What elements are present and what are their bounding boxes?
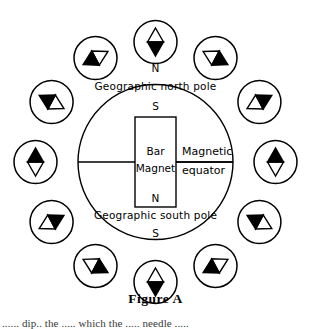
cropped-body-line: ...... dip.. the ..... which the ..... n… — [2, 318, 189, 329]
earth-magnetism-illustration: N Geographic north pole S Bar Magnet N M… — [0, 0, 311, 329]
magnet-bottom-pole-label: N — [152, 192, 160, 204]
compass-10-oclock — [30, 81, 73, 124]
bar-magnet-label-line1: Bar — [147, 145, 166, 157]
compass-3-oclock — [254, 141, 297, 184]
compass-9-oclock — [14, 141, 57, 184]
cropped-text-strip: ...... dip.. the ..... which the ..... n… — [0, 318, 311, 329]
compass-7-oclock — [74, 244, 117, 287]
magnetic-equator-label-line2: equator — [182, 164, 226, 177]
compass-12-oclock — [134, 21, 177, 64]
compass-8-oclock — [30, 201, 73, 244]
compass-4-oclock — [238, 201, 281, 244]
figure-a-diagram: N Geographic north pole S Bar Magnet N M… — [0, 0, 311, 329]
compass-11-oclock — [74, 37, 117, 80]
figure-caption: Figure A — [128, 291, 182, 306]
magnet-top-pole-label: S — [152, 100, 159, 112]
geographic-south-tick: S — [152, 227, 159, 239]
bar-magnet-label-line2: Magnet — [136, 162, 175, 174]
compass-5-oclock — [194, 244, 237, 287]
magnetic-equator-label-line1: Magnetic — [182, 145, 232, 158]
geographic-south-pole-label: Geographic south pole — [94, 209, 217, 221]
compass-1-oclock — [194, 37, 237, 80]
compass-2-oclock — [238, 81, 281, 124]
geographic-north-pole-label: Geographic north pole — [95, 80, 217, 92]
